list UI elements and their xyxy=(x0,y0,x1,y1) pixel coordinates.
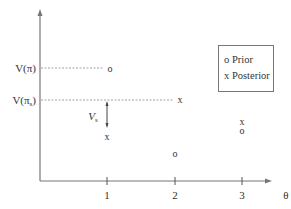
legend-item-posterior: x Posterior xyxy=(224,70,270,81)
legend: o Prior x Posterior xyxy=(218,45,274,92)
y-axis-arrow-icon xyxy=(38,9,43,16)
vs-arrow-head-down-icon xyxy=(106,123,109,128)
prior-point-3: o xyxy=(240,125,245,136)
legend-item-prior: o Prior xyxy=(224,54,253,65)
chart-canvas: 1 2 3 θ V(π) V(πs) Vs o x x o x o xyxy=(0,0,291,209)
x-axis-label: θ xyxy=(283,189,288,201)
prior-point-2: o xyxy=(173,148,178,159)
y-label-v-pi: V(π) xyxy=(15,62,36,75)
x-tick-label-2: 2 xyxy=(172,189,178,201)
vs-label: Vs xyxy=(88,110,98,124)
posterior-point-1: x xyxy=(105,131,110,142)
x-tick-label-1: 1 xyxy=(104,189,110,201)
prior-point-1: o xyxy=(108,63,113,74)
y-label-v-pis: V(πs) xyxy=(12,94,36,108)
x-tick-label-3: 3 xyxy=(239,189,245,201)
posterior-point-2: x xyxy=(178,94,183,105)
vs-arrow-head-up-icon xyxy=(106,101,109,106)
x-axis-arrow-icon xyxy=(265,179,272,184)
